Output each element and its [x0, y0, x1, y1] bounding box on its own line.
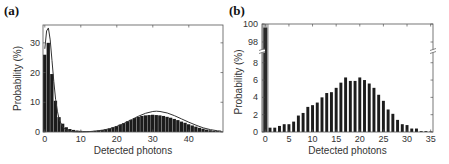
x-tick-label: 15 [331, 134, 341, 144]
y-tick-label: 4 [253, 92, 258, 102]
bar [297, 116, 300, 132]
bar [151, 115, 154, 132]
bar [201, 129, 204, 132]
y-tick-label: 98 [248, 37, 258, 47]
bar [176, 120, 179, 132]
bar [382, 101, 385, 132]
y-tick-label: 0 [35, 127, 40, 137]
bar [354, 81, 357, 132]
bar [410, 129, 413, 132]
bar [321, 97, 324, 132]
x-tick-label: 25 [378, 134, 388, 144]
bar [140, 116, 143, 132]
bar [162, 116, 165, 132]
axes-frame-a [43, 25, 223, 132]
bar [278, 126, 281, 132]
x-tick-label: 20 [355, 134, 365, 144]
histogram-chart-a: 0102030400102030Detected photonsProbabil… [0, 0, 225, 164]
bar [50, 74, 53, 132]
bar [330, 92, 333, 132]
bar [155, 115, 158, 132]
bar [273, 128, 276, 132]
bar [283, 124, 286, 132]
bar [401, 124, 404, 132]
bar [311, 105, 314, 132]
bar [129, 120, 132, 132]
x-tick-label: 0 [263, 134, 268, 144]
bar [306, 107, 309, 132]
bar [194, 127, 197, 132]
bar [165, 117, 168, 132]
bar [339, 83, 342, 132]
bar [396, 120, 399, 132]
x-tick-label: 20 [112, 134, 122, 144]
bar [133, 118, 136, 132]
bars-b [262, 24, 432, 132]
bar [169, 118, 172, 132]
y-tick-label: 2 [253, 110, 258, 120]
bar [191, 125, 194, 132]
y-tick-label: 10 [30, 97, 40, 107]
bar [147, 115, 150, 132]
y-tick-label: 100 [243, 19, 258, 29]
axes-frame-b [262, 24, 433, 132]
x-tick-label: 40 [184, 134, 194, 144]
bar [415, 129, 418, 132]
bar [183, 123, 186, 132]
bar [335, 88, 338, 132]
bar [137, 117, 140, 132]
x-tick-label: 10 [308, 134, 318, 144]
bar [358, 77, 361, 132]
bar [43, 55, 46, 132]
bar [325, 93, 328, 132]
y-tick-label: 30 [30, 38, 40, 48]
bar [316, 103, 319, 132]
x-tick-label: 5 [286, 134, 291, 144]
bar [180, 122, 183, 132]
histogram-chart-b: 051015202530350246898100Detected photons… [225, 0, 449, 164]
x-tick-label: 30 [402, 134, 412, 144]
y-tick-label: 8 [253, 58, 258, 68]
x-axis-title-b: Detected photons [308, 145, 386, 156]
bar [349, 81, 352, 132]
x-axis-title-a: Detected photons [94, 145, 172, 156]
bar [47, 43, 50, 132]
bar [158, 115, 161, 132]
x-tick-label: 35 [426, 134, 436, 144]
y-tick-label: 6 [253, 75, 258, 85]
y-tick-label: 20 [30, 68, 40, 78]
bar [377, 95, 380, 132]
fit-curve [45, 28, 221, 132]
bar [387, 109, 390, 132]
bar [391, 114, 394, 132]
y-axis-title-a: Probability (%) [12, 46, 23, 111]
bar [372, 88, 375, 132]
y-tick-label: 0 [253, 127, 258, 137]
x-tick-label: 0 [42, 134, 47, 144]
bar [144, 115, 147, 132]
bar [173, 119, 176, 132]
x-tick-label: 30 [148, 134, 158, 144]
chart-panel-a: (a) 0102030400102030Detected photonsProb… [0, 0, 225, 164]
bar [344, 77, 347, 132]
bar [269, 128, 272, 132]
bar [368, 84, 371, 132]
y-axis-title-b: Probability (%) [233, 49, 244, 114]
bar [292, 122, 295, 132]
bar [126, 121, 129, 132]
bar [363, 80, 366, 132]
chart-panel-b: (b) 051015202530350246898100Detected pho… [225, 0, 449, 164]
bar [198, 128, 201, 132]
bar [302, 113, 305, 132]
x-tick-label: 10 [76, 134, 86, 144]
